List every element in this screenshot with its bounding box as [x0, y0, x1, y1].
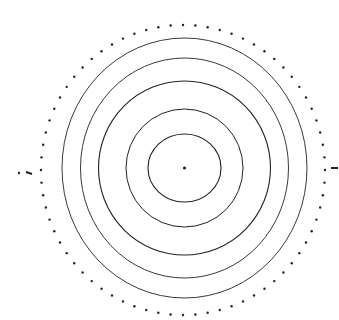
ring-dot [169, 313, 171, 315]
ring-dot [182, 24, 184, 26]
ring-dot [65, 252, 67, 254]
ring-dot [206, 312, 208, 314]
ring-dot [100, 288, 102, 290]
ring-dot [53, 108, 55, 110]
ring-dot [263, 288, 265, 290]
ring-dot [319, 206, 321, 208]
ring-dot [122, 37, 124, 39]
ring-dot [273, 58, 275, 60]
ring-dot [157, 312, 159, 314]
ring-dot [122, 300, 124, 302]
ring-dot [282, 271, 284, 273]
ring-dot [53, 230, 55, 232]
ring-dot [91, 58, 93, 60]
ring-dot [305, 96, 307, 98]
ring-dot [48, 218, 50, 220]
ring-dot [315, 119, 317, 121]
ring-dot [73, 262, 75, 264]
ring-dot [145, 29, 147, 31]
ring-dot [111, 43, 113, 45]
ring-dot [194, 24, 196, 26]
concentric-circles-diagram [0, 0, 339, 320]
ring-dot [100, 50, 102, 52]
ring-dot [311, 108, 313, 110]
ring-dot [194, 313, 196, 315]
ring-dot [145, 309, 147, 311]
ring-dot [42, 194, 44, 196]
ring-dot [273, 280, 275, 282]
ring-dot [311, 230, 313, 232]
ring-dot [42, 144, 44, 146]
ring-dot [324, 169, 326, 171]
ring-dot [59, 241, 61, 243]
ring-dot [59, 96, 61, 98]
ring-dot [219, 309, 221, 311]
ring-dot [48, 119, 50, 121]
ring-dot [291, 76, 293, 78]
ring-dot [45, 206, 47, 208]
ring-dot [305, 241, 307, 243]
center-point [183, 166, 186, 169]
ring-dot [322, 194, 324, 196]
ring-dot [323, 181, 325, 183]
ring-dot [111, 294, 113, 296]
ring-dot [73, 76, 75, 78]
ring-dot [65, 86, 67, 88]
ring-dot [133, 33, 135, 35]
ring-dot [253, 294, 255, 296]
left-tick-marker [26, 172, 32, 174]
ring-dot [81, 66, 83, 68]
ring-dot [133, 305, 135, 307]
ring-dot [298, 252, 300, 254]
side-markers [18, 168, 338, 174]
ring-dot [182, 314, 184, 316]
ring-dot [319, 131, 321, 133]
ring-dot [230, 305, 232, 307]
ring-dot [40, 181, 42, 183]
ring-dot [298, 86, 300, 88]
ring-dot [263, 50, 265, 52]
ring-dot [206, 26, 208, 28]
ring-dot [40, 169, 42, 171]
diagram-canvas [0, 0, 339, 320]
ring-dot [282, 66, 284, 68]
ring-dot [322, 144, 324, 146]
ring-dot [81, 271, 83, 273]
ring-dot [219, 29, 221, 31]
ring-dot [315, 218, 317, 220]
ring-dot [242, 300, 244, 302]
dotted-outer-ring [40, 24, 326, 316]
ring-dot [45, 131, 47, 133]
ring-dot [323, 156, 325, 158]
left-marker-dot [18, 172, 20, 174]
ring-dot [253, 43, 255, 45]
ring-dot [230, 33, 232, 35]
ring-dot [291, 262, 293, 264]
ring-dot [91, 280, 93, 282]
ring-dot [169, 24, 171, 26]
ring-dot [242, 37, 244, 39]
ring-dot [157, 26, 159, 28]
ring-dot [40, 156, 42, 158]
